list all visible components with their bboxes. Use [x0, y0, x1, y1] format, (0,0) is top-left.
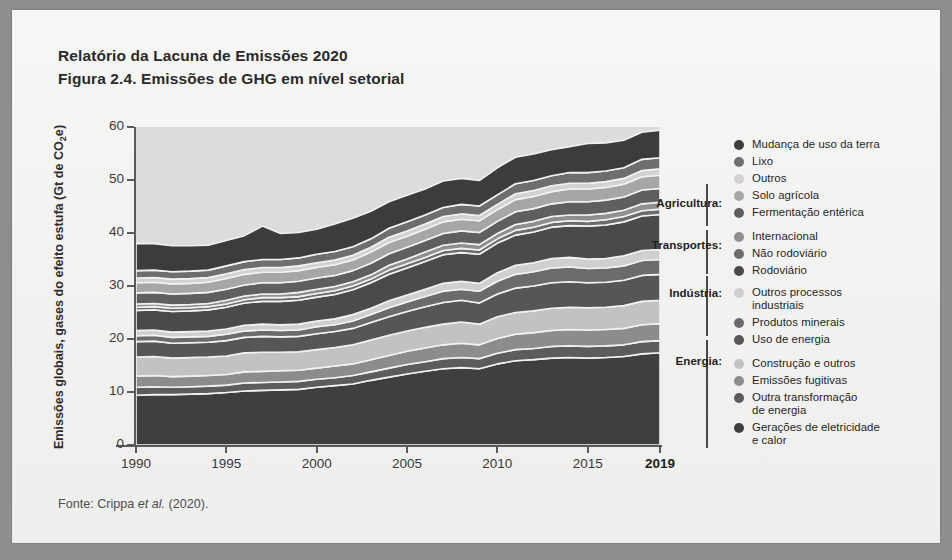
legend-item[interactable]: Lixo	[734, 155, 773, 168]
legend-swatch-icon	[734, 157, 744, 167]
legend-item[interactable]: Uso de energia	[734, 333, 830, 346]
legend-item[interactable]: Outra transformação de energia	[734, 391, 857, 416]
legend-item-label: Mudança de uso da terra	[752, 138, 880, 151]
stacked-area-chart	[136, 127, 660, 445]
y-axis-tick-label: 50	[78, 171, 124, 186]
screenshot-page: Relatório da Lacuna de Emissões 2020 Fig…	[0, 0, 952, 560]
legend-swatch-icon	[734, 376, 744, 386]
legend-item-label: Lixo	[752, 155, 773, 168]
legend-item-label: Outra transformação de energia	[752, 391, 857, 416]
legend-item-label: Emissões fugitivas	[752, 374, 847, 387]
legend-item-label: Gerações de eletricidade e calor	[752, 421, 880, 446]
legend-group-label: Energia:	[676, 354, 722, 367]
legend-item-label: Outros	[752, 172, 786, 185]
figure-title: Figura 2.4. Emissões de GHG em nível set…	[58, 67, 405, 90]
legend-swatch-icon	[734, 191, 744, 201]
legend-swatch-icon	[734, 335, 744, 345]
legend-item[interactable]: Internacional	[734, 230, 818, 243]
legend-item[interactable]: Construção e outros	[734, 357, 856, 370]
x-axis-tick	[135, 447, 137, 453]
x-axis-tick	[496, 447, 498, 453]
y-axis-label-tail: e)	[52, 125, 66, 136]
y-axis-tick-label: 30	[78, 277, 124, 292]
legend-swatch-icon	[734, 266, 744, 276]
y-axis-tick	[127, 232, 134, 234]
legend-item[interactable]: Não rodoviário	[734, 247, 827, 260]
source-italic: et al.	[138, 497, 165, 511]
legend-item[interactable]: Solo agrícola	[734, 189, 819, 202]
legend-item-label: Outros processos industriais	[752, 286, 842, 311]
area-series-group	[136, 130, 660, 445]
legend-item[interactable]: Outros processos industriais	[734, 286, 842, 311]
legend-group-label: Indústria:	[669, 286, 722, 299]
x-axis-tick	[316, 447, 318, 453]
y-axis-label-subscript: 2	[58, 136, 68, 141]
legend-item-label: Fermentação entérica	[752, 206, 864, 219]
x-axis-tick-label: 2000	[282, 456, 352, 471]
y-axis-tick	[127, 338, 134, 340]
x-axis-tick-label: 1995	[191, 456, 261, 471]
y-axis-tick-label: 0	[78, 436, 124, 451]
legend-swatch-icon	[734, 318, 744, 328]
legend-group-bracket	[706, 230, 708, 274]
x-axis-tick-label: 2010	[462, 456, 532, 471]
y-axis-tick	[127, 179, 134, 181]
legend-group-label: Transportes:	[652, 238, 722, 251]
y-axis-tick	[127, 285, 134, 287]
y-axis-label: Emissões globais, gases do efeito estufa…	[52, 122, 70, 452]
y-axis-tick-label: 60	[78, 118, 124, 133]
x-axis-tick	[225, 447, 227, 453]
legend-item[interactable]: Gerações de eletricidade e calor	[734, 421, 880, 446]
source-prefix: Fonte: Crippa	[58, 497, 138, 511]
legend-item-label: Solo agrícola	[752, 189, 819, 202]
legend-item-label: Internacional	[752, 230, 818, 243]
y-axis-tick	[127, 391, 134, 393]
legend-item-label: Construção e outros	[752, 357, 856, 370]
plot-area	[136, 127, 660, 445]
report-title: Relatório da Lacuna de Emissões 2020	[58, 44, 405, 67]
x-axis-tick	[587, 447, 589, 453]
x-axis-tick-label: 2015	[553, 456, 623, 471]
legend-swatch-icon	[734, 423, 744, 433]
source-note: Fonte: Crippa et al. (2020).	[58, 497, 209, 511]
chart-container: Emissões globais, gases do efeito estufa…	[58, 122, 918, 482]
chart-legend: Agricultura:Transportes:Indústria:Energi…	[650, 126, 918, 456]
y-axis-tick	[127, 444, 134, 446]
legend-item-label: Não rodoviário	[752, 247, 827, 260]
legend-item[interactable]: Fermentação entérica	[734, 206, 864, 219]
figure-title-block: Relatório da Lacuna de Emissões 2020 Fig…	[58, 44, 405, 90]
legend-swatch-icon	[734, 288, 744, 298]
legend-swatch-icon	[734, 359, 744, 369]
x-axis-tick	[406, 447, 408, 453]
legend-item-label: Produtos minerais	[752, 316, 845, 329]
y-axis-tick-label: 40	[78, 224, 124, 239]
legend-item-label: Rodoviário	[752, 264, 807, 277]
x-axis-tick-label: 2005	[372, 456, 442, 471]
legend-swatch-icon	[734, 174, 744, 184]
legend-item-label: Uso de energia	[752, 333, 830, 346]
legend-item[interactable]: Emissões fugitivas	[734, 374, 847, 387]
legend-group-bracket	[706, 276, 708, 336]
y-axis-line	[134, 127, 136, 446]
legend-item[interactable]: Mudança de uso da terra	[734, 138, 880, 151]
document-page-card: Relatório da Lacuna de Emissões 2020 Fig…	[12, 10, 940, 543]
legend-item[interactable]: Produtos minerais	[734, 316, 845, 329]
legend-swatch-icon	[734, 249, 744, 259]
legend-swatch-icon	[734, 140, 744, 150]
legend-swatch-icon	[734, 232, 744, 242]
x-axis-tick-label: 1990	[101, 456, 171, 471]
legend-item[interactable]: Rodoviário	[734, 264, 807, 277]
y-axis-label-main: Emissões globais, gases do efeito estufa…	[52, 141, 66, 449]
x-axis-line	[116, 445, 662, 447]
y-axis-tick-label: 10	[78, 383, 124, 398]
legend-swatch-icon	[734, 208, 744, 218]
legend-swatch-icon	[734, 393, 744, 403]
source-suffix: (2020).	[165, 497, 208, 511]
legend-group-label: Agricultura:	[656, 196, 722, 209]
legend-item[interactable]: Outros	[734, 172, 786, 185]
y-axis-tick	[127, 126, 134, 128]
y-axis-tick-label: 20	[78, 330, 124, 345]
x-axis-tick-label: 2019	[625, 456, 695, 471]
